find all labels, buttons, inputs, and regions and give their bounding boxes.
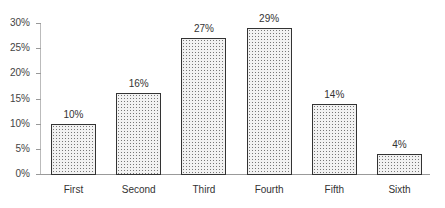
y-tick-mark — [36, 23, 41, 24]
bar-value-label: 14% — [309, 89, 359, 100]
bar-sixth — [377, 154, 422, 175]
x-tick-label: Second — [109, 184, 169, 195]
bar-value-label: 10% — [49, 109, 99, 120]
bar-value-label: 29% — [244, 13, 294, 24]
bar-first — [51, 124, 96, 175]
y-tick-mark — [36, 99, 41, 100]
bar-third — [181, 38, 226, 175]
bar-fifth — [312, 104, 357, 175]
bar-value-label: 16% — [114, 78, 164, 89]
x-tick-label: First — [44, 184, 104, 195]
bar-value-label: 27% — [179, 23, 229, 34]
y-tick-label: 20% — [0, 68, 30, 78]
y-tick-mark — [36, 174, 41, 175]
y-tick-label: 0% — [0, 169, 30, 179]
bar-value-label: 4% — [375, 139, 425, 150]
bar-chart: 0%5%10%15%20%25%30% 10%First16%Second27%… — [0, 0, 445, 208]
y-tick-mark — [36, 149, 41, 150]
x-tick-label: Third — [174, 184, 234, 195]
y-tick-label: 15% — [0, 94, 30, 104]
y-tick-mark — [36, 73, 41, 74]
y-tick-label: 25% — [0, 43, 30, 53]
y-tick-label: 5% — [0, 144, 30, 154]
bar-second — [116, 93, 161, 175]
x-tick-label: Fifth — [304, 184, 364, 195]
y-tick-label: 30% — [0, 18, 30, 28]
x-tick-label: Sixth — [370, 184, 430, 195]
x-axis — [40, 174, 430, 175]
x-tick-label: Fourth — [239, 184, 299, 195]
y-tick-label: 10% — [0, 119, 30, 129]
bar-fourth — [247, 28, 292, 175]
y-tick-mark — [36, 48, 41, 49]
y-tick-mark — [36, 124, 41, 125]
